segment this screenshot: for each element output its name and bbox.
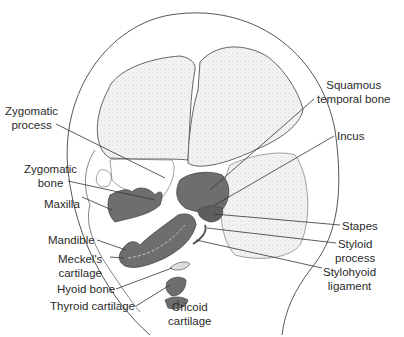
mandible-shape (119, 214, 196, 268)
label-zygomatic-bone-line1: Zygomatic (24, 162, 77, 176)
label-styloid-line2: process (335, 251, 375, 265)
label-squamous-line1: Squamous (317, 78, 391, 92)
label-zygomatic-bone: Zygomatic bone (24, 162, 77, 190)
hyoid-shape (170, 262, 190, 270)
label-cricoid-cartilage: Cricoid cartilage (168, 300, 211, 328)
label-stylohyoid-ligament: Stylohyoid ligament (323, 265, 376, 293)
parietal-bone (188, 47, 303, 166)
label-squamous-line2: temporal bone (317, 92, 391, 106)
label-incus: Incus (337, 129, 365, 143)
squamous-temporal-shape (177, 172, 229, 212)
label-meckels-cartilage: Meckel's cartilage (58, 252, 102, 280)
label-stylohyoid-line1: Stylohyoid (323, 265, 376, 279)
label-cricoid-line1: Cricoid (168, 300, 211, 314)
label-stapes: Stapes (342, 219, 378, 233)
label-maxilla: Maxilla (44, 197, 80, 211)
ossicles-shape (198, 206, 223, 222)
nasal-outline (96, 170, 111, 187)
label-styloid-process: Styloid process (335, 237, 375, 265)
label-zygomatic-process: Zygomatic process (5, 104, 58, 132)
label-meckels-line2: cartilage (58, 266, 102, 280)
label-stylohyoid-line2: ligament (323, 279, 376, 293)
label-zygomatic-process-line2: process (5, 118, 58, 132)
label-mandible: Mandible (48, 233, 95, 247)
label-zygomatic-process-line1: Zygomatic (5, 104, 58, 118)
label-squamous-temporal-bone: Squamous temporal bone (317, 78, 391, 106)
label-hyoid-bone: Hyoid bone (57, 282, 115, 296)
label-meckels-line1: Meckel's (58, 252, 102, 266)
label-styloid-line1: Styloid (335, 237, 375, 251)
label-thyroid-cartilage: Thyroid cartilage (50, 299, 135, 313)
label-zygomatic-bone-line2: bone (24, 176, 77, 190)
maxilla-shape (108, 188, 162, 222)
frontal-bone (97, 56, 195, 160)
thyroid-cartilage-shape (166, 277, 186, 296)
label-cricoid-line2: cartilage (168, 314, 211, 328)
